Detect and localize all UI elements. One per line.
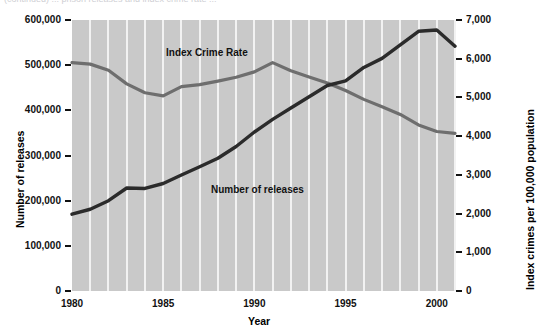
x-tick-label: 1995 bbox=[326, 299, 366, 309]
y2-tick-label: 4,000 bbox=[466, 131, 491, 141]
y2-tick-label: 5,000 bbox=[466, 92, 491, 102]
y2-tick-mark bbox=[456, 58, 462, 60]
y-tick-mark bbox=[65, 245, 71, 247]
y2-tick-mark bbox=[456, 213, 462, 215]
y-tick-label: 300,000 bbox=[0, 151, 61, 161]
y-tick-label: 0 bbox=[0, 286, 61, 296]
y-tick-label: 200,000 bbox=[0, 196, 61, 206]
y-tick-label: 400,000 bbox=[0, 105, 61, 115]
y2-tick-mark bbox=[456, 251, 462, 253]
y-tick-mark bbox=[65, 290, 71, 292]
y-tick-mark bbox=[65, 64, 71, 66]
y2-tick-mark bbox=[456, 290, 462, 292]
y2-tick-label: 2,000 bbox=[466, 209, 491, 219]
plot-area bbox=[72, 20, 455, 291]
y2-tick-label: 1,000 bbox=[466, 247, 491, 257]
y-tick-label: 100,000 bbox=[0, 241, 61, 251]
series-lines bbox=[72, 20, 455, 291]
x-tick-label: 2000 bbox=[417, 299, 457, 309]
annotation-number-of-releases: Number of releases bbox=[211, 184, 304, 195]
x-tick-label: 1980 bbox=[52, 299, 92, 309]
y2-tick-mark bbox=[456, 19, 462, 21]
y2-tick-label: 6,000 bbox=[466, 54, 491, 64]
clipped-caption: (continued) ... prison releases and inde… bbox=[0, 0, 540, 8]
y-tick-mark bbox=[65, 109, 71, 111]
y-tick-mark bbox=[65, 19, 71, 21]
y-axis-title: Number of releases bbox=[14, 131, 26, 228]
y2-tick-label: 0 bbox=[466, 286, 472, 296]
y2-tick-mark bbox=[456, 96, 462, 98]
x-tick-label: 1985 bbox=[143, 299, 183, 309]
y2-tick-mark bbox=[456, 135, 462, 137]
y2-tick-label: 3,000 bbox=[466, 170, 491, 180]
y2-tick-label: 7,000 bbox=[466, 15, 491, 25]
y-tick-mark bbox=[65, 200, 71, 202]
y2-axis-title: Index crimes per 100,000 population bbox=[524, 109, 536, 290]
x-axis-title: Year bbox=[248, 315, 270, 327]
x-tick-label: 1990 bbox=[234, 299, 274, 309]
chart-figure: (continued) ... prison releases and inde… bbox=[0, 0, 540, 333]
y-tick-label: 600,000 bbox=[0, 15, 61, 25]
clipped-caption-text: (continued) ... prison releases and inde… bbox=[4, 0, 540, 4]
y-tick-mark bbox=[65, 155, 71, 157]
annotation-index-crime-rate: Index Crime Rate bbox=[166, 47, 248, 58]
line-index-crime-rate bbox=[72, 63, 455, 134]
y-tick-label: 500,000 bbox=[0, 60, 61, 70]
y2-tick-mark bbox=[456, 174, 462, 176]
